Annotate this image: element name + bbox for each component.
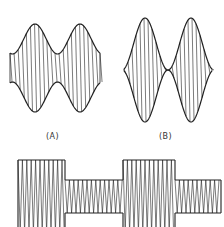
panel-c-waveform: [18, 160, 221, 227]
modulation-diagram: [0, 0, 224, 227]
panel-a-waveform: [10, 24, 102, 112]
panel-b-waveform: [124, 18, 214, 122]
panel-a-label: (A): [46, 132, 59, 141]
panel-b-label: (B): [159, 132, 172, 141]
